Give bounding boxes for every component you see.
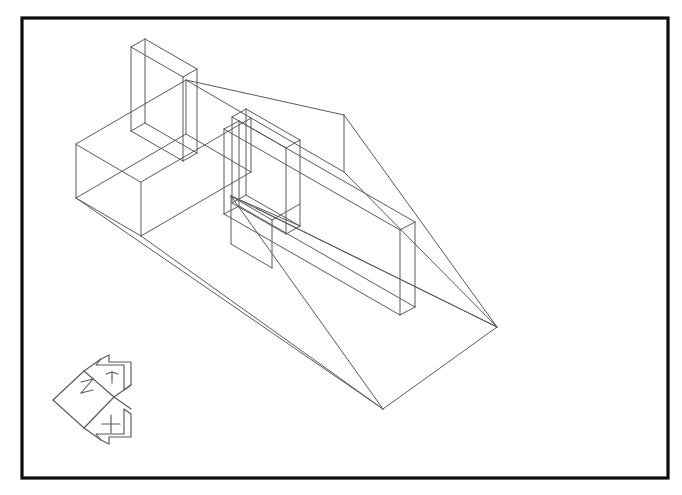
- isometric-drawing-svg: [0, 0, 682, 495]
- drawing-canvas: [0, 0, 682, 495]
- page-background: [0, 0, 682, 495]
